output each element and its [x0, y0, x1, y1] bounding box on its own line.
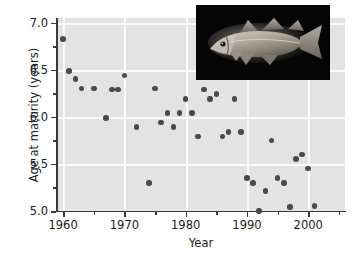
x-axis-minor-tick — [216, 212, 218, 215]
data-point — [207, 96, 213, 102]
x-axis-minor-tick — [278, 212, 280, 215]
x-axis-tick — [186, 212, 188, 217]
data-point — [66, 68, 72, 74]
gridline-vertical — [124, 18, 126, 211]
cod-photo-inset — [196, 5, 330, 80]
x-axis-tick-label: 1960 — [48, 218, 77, 232]
x-axis-tick-label: 2000 — [294, 218, 323, 232]
y-axis-tick-label: 5.0 — [30, 204, 48, 218]
data-point — [250, 180, 256, 186]
y-axis-minor-tick — [53, 140, 56, 142]
x-axis-tick-label: 1970 — [110, 218, 139, 232]
data-point — [195, 134, 201, 140]
figure-scatter-age-at-maturity: 5.05.56.06.57.019601970198019902000 Age … — [0, 0, 362, 264]
x-axis-tick — [308, 212, 310, 217]
data-point — [73, 76, 79, 82]
data-point — [293, 156, 299, 162]
data-point — [226, 129, 232, 135]
x-axis-line — [56, 211, 346, 213]
data-point — [60, 36, 66, 42]
data-point — [189, 110, 195, 116]
data-point — [103, 115, 109, 121]
gridline-vertical — [186, 18, 188, 211]
data-point — [91, 86, 97, 92]
data-point — [214, 91, 220, 97]
data-point — [165, 110, 171, 116]
y-axis-minor-tick — [53, 187, 56, 189]
data-point — [287, 204, 293, 210]
x-axis-minor-tick — [155, 212, 157, 215]
data-point — [263, 188, 269, 194]
y-axis-title-host: Age at maturity (years) — [10, 18, 24, 211]
y-axis-tick — [51, 70, 56, 72]
x-axis-tick-label: 1980 — [171, 218, 200, 232]
y-axis-tick-label-wrap: 5.0 — [0, 211, 48, 212]
data-point — [238, 129, 244, 135]
data-point — [146, 180, 152, 186]
x-axis-title: Year — [57, 236, 345, 250]
y-axis-minor-tick — [53, 93, 56, 95]
gridline-horizontal — [57, 117, 345, 119]
y-axis-tick — [51, 117, 56, 119]
x-axis-tick — [247, 212, 249, 217]
y-axis-tick-label-wrap: 7.0 — [0, 23, 48, 24]
y-axis-tick — [51, 23, 56, 25]
y-axis-line — [56, 18, 58, 212]
x-axis-minor-tick — [94, 212, 96, 215]
data-point — [299, 152, 305, 158]
y-axis-tick — [51, 164, 56, 166]
data-point — [244, 175, 250, 181]
y-axis-tick-label: 7.0 — [30, 16, 48, 30]
y-axis-title: Age at maturity (years) — [27, 30, 41, 200]
y-axis-tick — [51, 211, 56, 213]
data-point — [256, 208, 262, 214]
gridline-horizontal — [57, 164, 345, 166]
gridline-vertical — [63, 18, 65, 211]
data-point — [281, 180, 287, 186]
x-axis-minor-tick — [339, 212, 341, 215]
x-axis-tick — [124, 212, 126, 217]
y-axis-minor-tick — [53, 46, 56, 48]
x-axis-tick — [63, 212, 65, 217]
cod-fish-illustration — [196, 5, 330, 80]
x-axis-tick-label: 1990 — [232, 218, 261, 232]
